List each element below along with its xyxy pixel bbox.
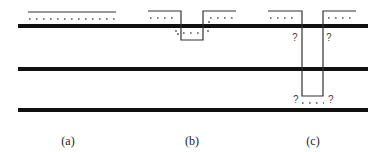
panel-b-dot — [207, 30, 209, 32]
caption-a: (a) — [61, 134, 74, 148]
panel-b-dot — [175, 30, 177, 32]
panel-a — [28, 12, 117, 19]
unknown-marker-top-right: ? — [326, 32, 332, 43]
diagram-canvas: ? ? ? ? (a) (b) (c) — [0, 0, 386, 152]
caption-b: (b) — [185, 134, 199, 148]
panel-b-dot — [208, 21, 210, 23]
panel-b-dot — [177, 33, 179, 35]
unknown-marker-bottom-right: ? — [328, 94, 334, 105]
caption-c: (c) — [306, 134, 319, 148]
unknown-marker-bottom-left: ? — [293, 94, 299, 105]
panel-c-step-outline — [268, 11, 356, 96]
unknown-marker-top-left: ? — [292, 32, 298, 43]
